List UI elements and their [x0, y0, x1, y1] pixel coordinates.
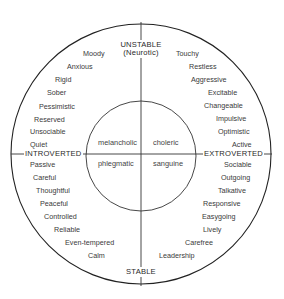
trait-peaceful: Peaceful	[40, 200, 68, 207]
trait-careful: Careful	[33, 174, 56, 181]
trait-sociable: Sociable	[224, 161, 252, 168]
temperament-phlegmatic: phlegmatic	[98, 160, 134, 167]
axis-extroverted-label: EXTROVERTED	[203, 150, 264, 158]
temperament-choleric: choleric	[153, 139, 178, 146]
axis-stable-label: STABLE	[124, 267, 158, 277]
neurotic-text: (Neurotic)	[118, 49, 164, 57]
personality-circle-diagram: UNSTABLE (Neurotic) STABLE INTROVERTED E…	[0, 0, 284, 299]
temperament-melancholic: melancholic	[98, 139, 137, 146]
trait-sober: Sober	[47, 89, 66, 96]
trait-passive: Passive	[30, 161, 55, 168]
trait-thoughtful: Thoughtful	[36, 187, 70, 194]
trait-active: Active	[232, 141, 252, 148]
trait-even-tempered: Even-tempered	[65, 239, 114, 246]
temperament-sanguine: sanguine	[153, 160, 183, 167]
axis-unstable-label: UNSTABLE (Neurotic)	[118, 40, 164, 58]
trait-touchy: Touchy	[176, 50, 199, 57]
trait-excitable: Excitable	[208, 89, 237, 96]
trait-controlled: Controlled	[44, 213, 77, 220]
trait-aggressive: Aggressive	[191, 76, 227, 83]
trait-reserved: Reserved	[34, 116, 65, 123]
trait-lively: Lively	[203, 226, 221, 233]
trait-responsive: Responsive	[203, 200, 241, 207]
trait-impulsive: Impulsive	[216, 115, 246, 122]
trait-pessimistic: Pessimistic	[39, 103, 75, 110]
trait-carefree: Carefree	[185, 239, 213, 246]
trait-leadership: Leadership	[159, 252, 195, 259]
trait-moody: Moody	[83, 50, 105, 57]
trait-unsociable: Unsociable	[30, 128, 66, 135]
trait-optimistic: Optimistic	[218, 128, 250, 135]
trait-restless: Restless	[189, 63, 217, 70]
trait-rigid: Rigid	[55, 76, 71, 83]
trait-calm: Calm	[88, 252, 105, 259]
trait-anxious: Anxious	[67, 63, 93, 70]
trait-changeable: Changeable	[204, 102, 243, 109]
trait-quiet: Quiet	[30, 141, 47, 148]
axis-introverted-label: INTROVERTED	[24, 150, 83, 158]
trait-talkative: Talkative	[218, 187, 246, 194]
trait-reliable: Reliable	[54, 226, 80, 233]
trait-outgoing: Outgoing	[221, 174, 250, 181]
trait-easygoing: Easygoing	[202, 213, 236, 220]
